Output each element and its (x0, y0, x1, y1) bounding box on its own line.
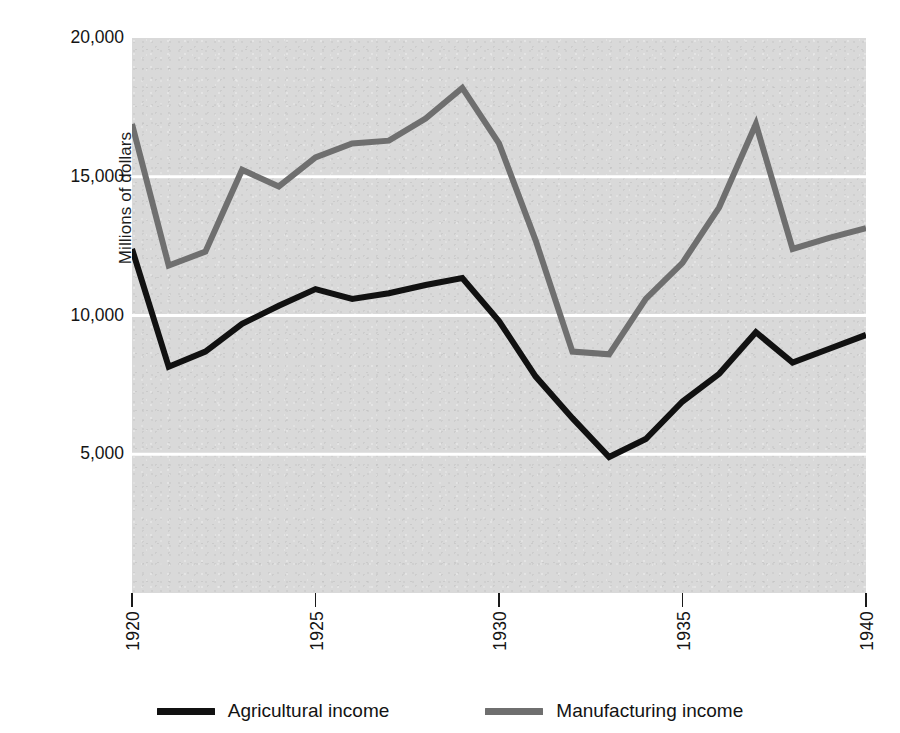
y-axis-tick-label: 20,000 (38, 27, 124, 48)
y-axis-tick-labels: 20,00015,00010,0005,000 (28, 0, 124, 600)
plot-area (132, 38, 866, 593)
x-axis-tick-mark (131, 593, 133, 607)
x-axis-tick-label: 1925 (307, 611, 377, 651)
chart-legend: Agricultural incomeManufacturing income (0, 694, 900, 728)
legend-label: Manufacturing income (556, 700, 743, 722)
x-axis-tick-mark (315, 593, 317, 607)
x-axis-tick-mark (498, 593, 500, 607)
legend-item[interactable]: Manufacturing income (485, 700, 743, 722)
x-axis-tick-mark (865, 593, 867, 607)
legend-item[interactable]: Agricultural income (157, 700, 390, 722)
y-axis-tick-label: 15,000 (38, 166, 124, 187)
line-chart-figure: Millions of dollars 20,00015,00010,0005,… (0, 0, 900, 733)
x-axis-tick-label: 1935 (674, 611, 744, 651)
y-axis-tick-label: 10,000 (38, 305, 124, 326)
x-axis-tick-mark (682, 593, 684, 607)
x-axis-tick-label: 1920 (123, 611, 193, 651)
legend-color-swatch (485, 708, 543, 715)
series-line (132, 249, 866, 457)
legend-label: Agricultural income (228, 700, 390, 722)
legend-color-swatch (157, 708, 215, 715)
series-lines (132, 88, 866, 457)
x-axis: 19201925193019351940 (132, 593, 866, 693)
x-axis-tick-label: 1930 (490, 611, 560, 651)
x-axis-tick-label: 1940 (857, 611, 900, 651)
plot-svg (132, 38, 866, 593)
gridlines (132, 177, 866, 455)
y-axis-tick-label: 5,000 (38, 443, 124, 464)
